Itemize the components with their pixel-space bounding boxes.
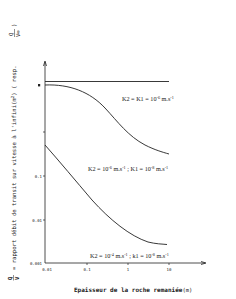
y-tick-0.001: 0.001 bbox=[30, 261, 43, 266]
svg-text:V∞: V∞ bbox=[15, 30, 21, 37]
x-tick-0.01: 0.01 bbox=[42, 267, 52, 272]
annotation-series-2: K2 = 10-6 m.s-1 ; K1 = 10-8 m.s-1 bbox=[88, 165, 168, 173]
x-axis bbox=[45, 262, 206, 265]
svg-text:Q: Q bbox=[7, 276, 13, 280]
annotation-series-1: K2 = K1 = 10-6 m.s-1 bbox=[122, 95, 174, 103]
y-axis-label: Q V = rapport débit de transit sur vites… bbox=[7, 24, 21, 281]
y-tick-0.1: 0.1 bbox=[35, 174, 43, 179]
svg-text:V: V bbox=[14, 276, 20, 280]
x-tick-0.1: 0.1 bbox=[83, 267, 91, 272]
y-axis bbox=[44, 61, 47, 263]
svg-text:): ) bbox=[11, 24, 17, 27]
y-marker bbox=[38, 84, 40, 86]
chart: 0.001 0.01 0.1 0.01 0.1 1 10 K2 = K1 = 1… bbox=[0, 0, 236, 299]
annotation-series-3: K2 = 10-4 m.s-1 ; k1 = 10-8 m.s-1 bbox=[90, 252, 169, 260]
y-tick-0.01: 0.01 bbox=[32, 218, 42, 223]
series-k2-1e-4-k1-1e-8 bbox=[45, 145, 167, 245]
svg-text:Q: Q bbox=[8, 32, 14, 36]
x-axis-label: Epaisseur de la roche remaniée(m) bbox=[74, 286, 192, 294]
svg-text:= rapport débit de transit sur: = rapport débit de transit sur vitesse à… bbox=[10, 65, 18, 270]
x-tick-1: 1 bbox=[127, 267, 130, 272]
x-tick-10: 10 bbox=[167, 267, 172, 272]
